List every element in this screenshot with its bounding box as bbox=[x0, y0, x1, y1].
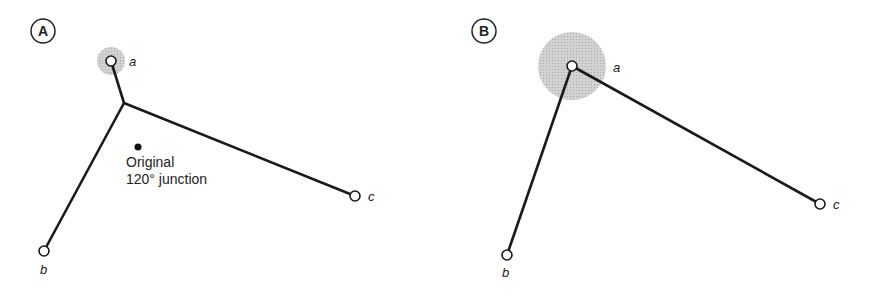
node-c bbox=[350, 191, 360, 201]
edge-a-c bbox=[572, 66, 820, 204]
node-label-a: a bbox=[129, 54, 136, 69]
original-junction-label-line1: Original bbox=[126, 154, 174, 170]
diagram-canvas: A a b c Original 120° junction B a b c bbox=[0, 0, 869, 295]
panel-label-b: B bbox=[479, 23, 489, 39]
original-junction-dot bbox=[135, 144, 142, 151]
node-a bbox=[106, 56, 116, 66]
node-label-b: b bbox=[502, 265, 509, 280]
edge-a-b bbox=[507, 66, 572, 255]
panel-b: B a b c bbox=[472, 19, 840, 280]
panel-a: A a b c Original 120° junction bbox=[31, 19, 375, 277]
node-c bbox=[815, 199, 825, 209]
node-label-c: c bbox=[833, 197, 840, 212]
panel-label-a: A bbox=[38, 23, 48, 39]
node-a bbox=[567, 61, 577, 71]
node-b bbox=[39, 246, 49, 256]
edge-junction-b bbox=[44, 103, 124, 251]
node-b bbox=[502, 250, 512, 260]
node-label-a: a bbox=[613, 60, 620, 75]
original-junction-label-line2: 120° junction bbox=[126, 171, 207, 187]
node-label-c: c bbox=[368, 189, 375, 204]
node-label-b: b bbox=[40, 262, 47, 277]
